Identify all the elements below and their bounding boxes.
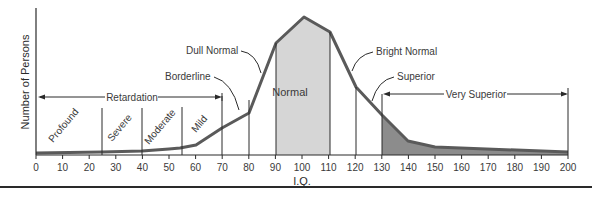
- x-tick-label: 60: [190, 162, 202, 173]
- x-tick-label: 50: [163, 162, 175, 173]
- profound-label: Profound: [46, 106, 81, 144]
- superior-label: Superior: [397, 71, 435, 82]
- x-tick-labels: 0 10 20 30 40 50 60 70 80 90 100 110 120…: [33, 162, 577, 173]
- iq-distribution-chart: 0 10 20 30 40 50 60 70 80 90 100 110 120…: [0, 0, 592, 202]
- x-tick-label: 130: [373, 162, 390, 173]
- normal-label: Normal: [272, 86, 307, 98]
- bright-normal-label: Bright Normal: [376, 46, 437, 57]
- bottom-rule: [0, 186, 592, 188]
- x-tick-label: 30: [110, 162, 122, 173]
- x-tick-label: 160: [453, 162, 470, 173]
- x-tick-label: 80: [243, 162, 255, 173]
- x-tick-label: 90: [270, 162, 282, 173]
- borderline-label: Borderline: [165, 71, 211, 82]
- x-tick-label: 190: [533, 162, 550, 173]
- x-tick-label: 140: [400, 162, 417, 173]
- dull-normal-leader: [241, 51, 261, 73]
- bright-normal-leader: [352, 52, 373, 71]
- x-tick-label: 10: [57, 162, 69, 173]
- x-tick-label: 70: [217, 162, 229, 173]
- x-tick-label: 170: [480, 162, 497, 173]
- x-tick-label: 120: [347, 162, 364, 173]
- borderline-leader: [214, 77, 239, 110]
- x-ticks: [36, 155, 568, 159]
- retardation-label: Retardation: [106, 92, 158, 103]
- x-tick-label: 0: [33, 162, 39, 173]
- x-tick-label: 100: [294, 162, 311, 173]
- moderate-label: Moderate: [142, 107, 178, 147]
- dull-normal-label: Dull Normal: [186, 45, 238, 56]
- x-tick-label: 200: [560, 162, 577, 173]
- mild-label: Mild: [189, 113, 209, 134]
- x-tick-label: 40: [137, 162, 149, 173]
- very-superior-label: Very Superior: [446, 89, 507, 100]
- x-tick-label: 110: [321, 162, 337, 173]
- x-tick-label: 20: [84, 162, 96, 173]
- superior-leader: [372, 77, 394, 101]
- y-axis-title: Number of Persons: [19, 34, 31, 129]
- severe-label: Severe: [105, 112, 134, 144]
- x-tick-label: 150: [427, 162, 444, 173]
- x-tick-label: 180: [506, 162, 523, 173]
